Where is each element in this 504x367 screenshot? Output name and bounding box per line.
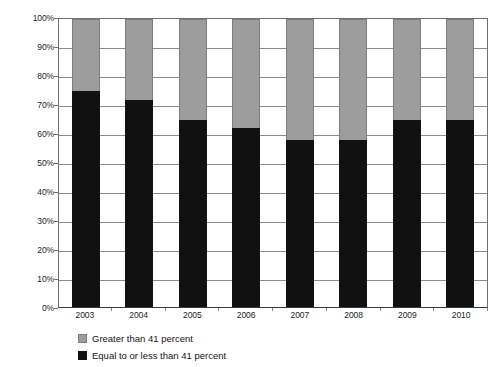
y-axis-tick-label: 70%	[18, 101, 54, 110]
stacked-bar-chart: 0%10%20%30%40%50%60%70%80%90%100% 200320…	[0, 0, 504, 367]
plot-area-wrapper: 0%10%20%30%40%50%60%70%80%90%100% 200320…	[0, 0, 504, 320]
legend-item-equal-or-less-than-41: Equal to or less than 41 percent	[78, 347, 438, 364]
bar-slot	[166, 19, 220, 307]
bar-slot	[380, 19, 434, 307]
stacked-bar[interactable]	[393, 19, 421, 307]
bar-segment-greater-than-41[interactable]	[393, 19, 421, 120]
bar-segment-equal-or-less-than-41[interactable]	[339, 140, 367, 307]
legend-item-greater-than-41: Greater than 41 percent	[78, 330, 438, 347]
bar-slot	[113, 19, 167, 307]
x-axis-tick-label: 2007	[273, 311, 327, 320]
x-axis-tick-label: 2010	[434, 311, 488, 320]
bar-segment-greater-than-41[interactable]	[179, 19, 207, 120]
y-axis-tick-label: 50%	[18, 159, 54, 168]
bar-segment-equal-or-less-than-41[interactable]	[232, 128, 260, 307]
legend-label-greater-than-41: Greater than 41 percent	[92, 334, 193, 344]
legend-swatch-gray-icon	[78, 334, 87, 343]
bar-slot	[273, 19, 327, 307]
y-axis-tick-label: 10%	[18, 275, 54, 284]
bar-segment-equal-or-less-than-41[interactable]	[393, 120, 421, 307]
bar-segment-equal-or-less-than-41[interactable]	[446, 120, 474, 307]
bar-segment-equal-or-less-than-41[interactable]	[72, 91, 100, 307]
bar-slot	[220, 19, 274, 307]
bar-segment-greater-than-41[interactable]	[339, 19, 367, 140]
bar-slot	[327, 19, 381, 307]
bars-container	[59, 19, 487, 307]
y-axis-tick-label: 100%	[18, 14, 54, 23]
bar-segment-greater-than-41[interactable]	[232, 19, 260, 128]
x-axis-tick-label: 2008	[327, 311, 381, 320]
stacked-bar[interactable]	[125, 19, 153, 307]
stacked-bar[interactable]	[446, 19, 474, 307]
x-axis-tick-label: 2006	[219, 311, 273, 320]
stacked-bar[interactable]	[179, 19, 207, 307]
bar-segment-equal-or-less-than-41[interactable]	[179, 120, 207, 307]
y-axis-tick-label: 40%	[18, 188, 54, 197]
bar-segment-equal-or-less-than-41[interactable]	[286, 140, 314, 307]
y-axis-tick-label: 0%	[18, 304, 54, 313]
x-axis-tick-label: 2003	[58, 311, 112, 320]
y-axis-tick-labels: 0%10%20%30%40%50%60%70%80%90%100%	[18, 18, 54, 308]
plot-area	[58, 18, 488, 308]
x-axis-tick-label: 2004	[112, 311, 166, 320]
legend-swatch-black-icon	[78, 351, 87, 360]
bar-segment-greater-than-41[interactable]	[125, 19, 153, 100]
x-axis-tick-label: 2005	[166, 311, 220, 320]
bar-segment-greater-than-41[interactable]	[72, 19, 100, 91]
bar-segment-greater-than-41[interactable]	[446, 19, 474, 120]
bar-segment-greater-than-41[interactable]	[286, 19, 314, 140]
bar-slot	[434, 19, 488, 307]
stacked-bar[interactable]	[232, 19, 260, 307]
stacked-bar[interactable]	[286, 19, 314, 307]
x-axis-tick-label: 2009	[381, 311, 435, 320]
x-axis-tick-labels: 20032004200520062007200820092010	[58, 311, 488, 327]
y-axis-tick-label: 90%	[18, 43, 54, 52]
y-axis-tick-label: 30%	[18, 217, 54, 226]
y-axis-tick-label: 60%	[18, 130, 54, 139]
chart-legend: Greater than 41 percent Equal to or less…	[78, 330, 438, 364]
stacked-bar[interactable]	[72, 19, 100, 307]
y-axis-tick-label: 20%	[18, 246, 54, 255]
bar-segment-equal-or-less-than-41[interactable]	[125, 100, 153, 307]
bar-slot	[59, 19, 113, 307]
stacked-bar[interactable]	[339, 19, 367, 307]
legend-label-equal-or-less-than-41: Equal to or less than 41 percent	[92, 351, 226, 361]
y-axis-tick-label: 80%	[18, 72, 54, 81]
